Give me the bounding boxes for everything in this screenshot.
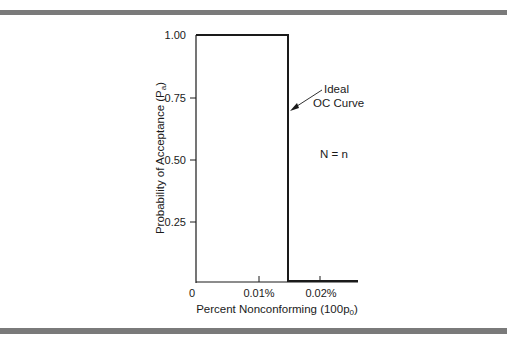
x-tick-label-0.01: 0.01% <box>243 287 274 299</box>
y-axis-title: Probability of Acceptance (Pa) <box>154 82 168 234</box>
annotation-ideal: Ideal <box>324 83 349 95</box>
annotation-n-equals-n: N = n <box>320 148 348 160</box>
oc-curve-chart: 1.00 0.75 0.50 0.25 0 0.01% 0.02% Ideal … <box>0 0 518 341</box>
y-tick-label-0.50: 0.50 <box>165 154 186 166</box>
annotation-oc-curve: OC Curve <box>313 97 364 109</box>
y-tick-label-0.25: 0.25 <box>165 216 186 228</box>
y-tick-label-0.75: 0.75 <box>165 92 186 104</box>
bottom-rule <box>0 328 507 334</box>
y-tick-label-1.00: 1.00 <box>165 29 186 41</box>
x-tick-label-0: 0 <box>189 287 195 299</box>
y-ticks <box>190 98 196 222</box>
annotation-arrowhead-icon <box>290 103 299 111</box>
x-axis-title: Percent Nonconforming (100p0) <box>196 303 358 317</box>
x-tick-label-0.02: 0.02% <box>305 287 336 299</box>
